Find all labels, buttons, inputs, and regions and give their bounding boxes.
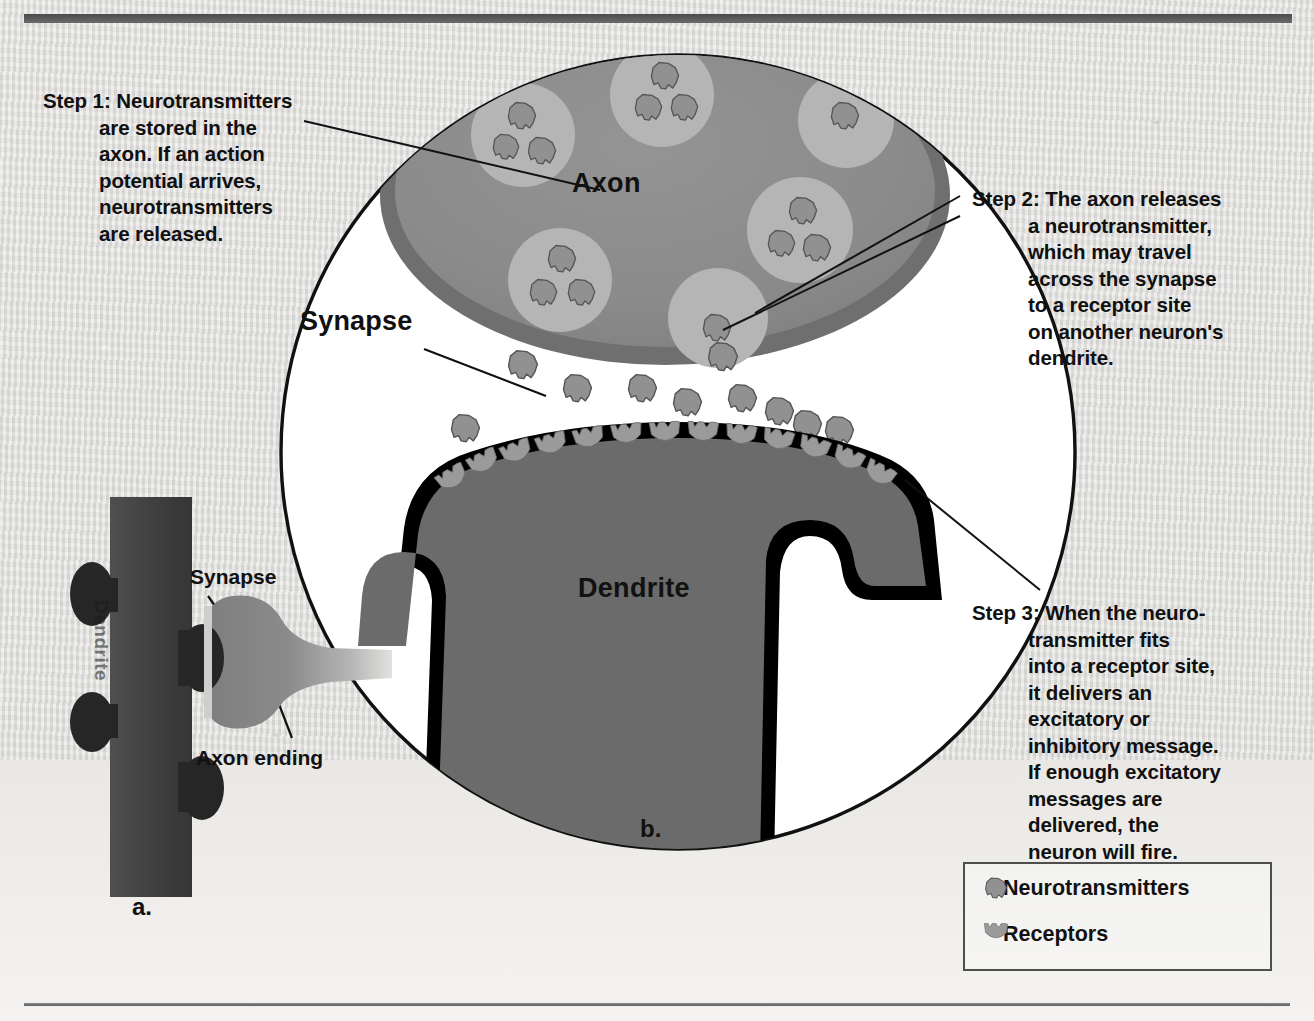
panel-a-label: a. — [132, 893, 152, 921]
inset-synapse-label: Synapse — [190, 565, 276, 589]
axon-label: Axon — [572, 168, 641, 199]
legend-box: Neurotransmitters Receptors — [963, 862, 1272, 971]
step1-callout: Step 1: Neurotransmitters are stored in … — [43, 88, 292, 247]
synapse-label-main: Synapse — [300, 306, 412, 337]
inset-dendrite-trunk — [110, 497, 192, 897]
dendrite-label: Dendrite — [578, 573, 690, 604]
neurotransmitter-icon — [983, 876, 1009, 902]
legend-item-receptors: Receptors — [983, 922, 1108, 947]
figure-root: Step 1: Neurotransmitters are stored in … — [0, 0, 1314, 1021]
legend-label-neurotransmitters: Neurotransmitters — [1003, 876, 1189, 901]
step3-callout: Step 3: When the neuro- transmitter fits… — [972, 600, 1221, 865]
legend-label-receptors: Receptors — [1003, 922, 1108, 947]
step2-callout: Step 2: The axon releases a neurotransmi… — [972, 186, 1223, 372]
panel-b-label: b. — [640, 815, 661, 843]
inset-axon-ending-label: Axon ending — [196, 746, 323, 770]
inset-dendrite-label: Dendrite — [90, 600, 112, 681]
receptor-icon — [983, 922, 1009, 942]
inset-synaptic-gap — [204, 606, 212, 718]
legend-item-neurotransmitters: Neurotransmitters — [983, 876, 1189, 901]
